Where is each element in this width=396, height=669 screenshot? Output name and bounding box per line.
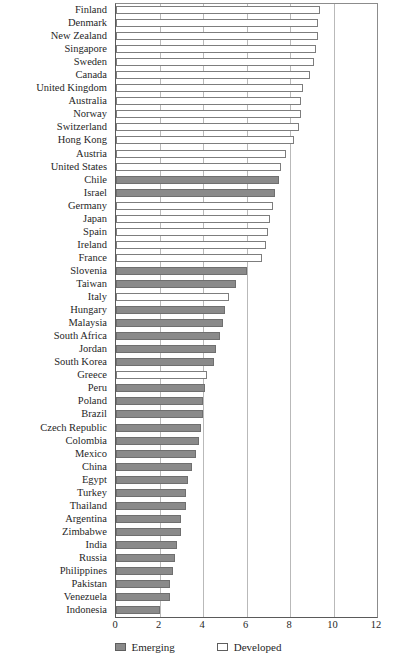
bar	[116, 176, 279, 184]
bar	[116, 202, 273, 210]
category-label: Austria	[0, 147, 112, 160]
legend-item: Emerging	[115, 641, 175, 653]
category-label: Japan	[0, 212, 112, 225]
bar	[116, 502, 186, 510]
bar	[116, 45, 316, 53]
category-label: Poland	[0, 394, 112, 407]
bar	[116, 463, 192, 471]
plot-area	[115, 3, 378, 618]
bar	[116, 71, 310, 79]
category-label: New Zealand	[0, 29, 112, 42]
legend-swatch-icon	[115, 643, 126, 651]
bar-row	[116, 369, 377, 382]
bar-row	[116, 148, 377, 161]
bar	[116, 371, 207, 379]
x-tick-label: 8	[286, 619, 291, 630]
bar	[116, 554, 175, 562]
category-label: Argentina	[0, 512, 112, 525]
bar	[116, 397, 203, 405]
bar	[116, 319, 223, 327]
bar-row	[116, 174, 377, 187]
legend-label: Emerging	[132, 641, 175, 653]
bar	[116, 358, 214, 366]
bar	[116, 136, 294, 144]
x-tick-label: 12	[371, 619, 382, 630]
bar	[116, 163, 281, 171]
bar-row	[116, 382, 377, 395]
category-label: Malaysia	[0, 316, 112, 329]
bar	[116, 32, 318, 40]
bar-row	[116, 239, 377, 252]
bar-row	[116, 487, 377, 500]
x-tick-label: 4	[199, 619, 204, 630]
category-label: United Kingdom	[0, 81, 112, 94]
bar	[116, 19, 318, 27]
category-label: United States	[0, 160, 112, 173]
bar-row	[116, 95, 377, 108]
category-label: Egypt	[0, 473, 112, 486]
bar-row	[116, 395, 377, 408]
bar-row	[116, 578, 377, 591]
bar-row	[116, 213, 377, 226]
category-label: Slovenia	[0, 264, 112, 277]
category-label: Zimbabwe	[0, 525, 112, 538]
category-axis-labels: FinlandDenmarkNew ZealandSingaporeSweden…	[0, 3, 112, 616]
bar-row	[116, 435, 377, 448]
category-label: Spain	[0, 225, 112, 238]
bar-row	[116, 552, 377, 565]
category-label: Jordan	[0, 342, 112, 355]
bar-row	[116, 422, 377, 435]
bar	[116, 528, 181, 536]
bar	[116, 123, 299, 131]
category-label: Germany	[0, 199, 112, 212]
bar-row	[116, 17, 377, 30]
bar	[116, 489, 186, 497]
bar-row	[116, 604, 377, 617]
category-label: Pakistan	[0, 577, 112, 590]
bar	[116, 332, 220, 340]
category-label: Hungary	[0, 303, 112, 316]
bar	[116, 215, 270, 223]
bar-row	[116, 43, 377, 56]
legend-item: Developed	[217, 641, 282, 653]
category-label: Czech Republic	[0, 421, 112, 434]
category-label: Thailand	[0, 499, 112, 512]
legend-swatch-icon	[217, 643, 228, 651]
category-label: Ireland	[0, 238, 112, 251]
category-label: France	[0, 251, 112, 264]
category-label: Switzerland	[0, 120, 112, 133]
bar	[116, 345, 216, 353]
bar-row	[116, 474, 377, 487]
category-label: Canada	[0, 68, 112, 81]
bar	[116, 541, 177, 549]
category-label: Greece	[0, 368, 112, 381]
bar-row	[116, 513, 377, 526]
bar	[116, 606, 160, 614]
bar-row	[116, 304, 377, 317]
bar-row	[116, 356, 377, 369]
bar-chart: FinlandDenmarkNew ZealandSingaporeSweden…	[0, 0, 396, 669]
bar	[116, 476, 188, 484]
bar-row	[116, 291, 377, 304]
bar	[116, 254, 262, 262]
category-label: Peru	[0, 381, 112, 394]
category-label: Singapore	[0, 42, 112, 55]
bar-series-container	[116, 4, 377, 617]
x-tick-label: 6	[243, 619, 248, 630]
bar-row	[116, 343, 377, 356]
bar-row	[116, 500, 377, 513]
bar	[116, 6, 320, 14]
bar	[116, 189, 275, 197]
x-axis-tick-labels: 024681012	[115, 619, 376, 635]
category-label: South Africa	[0, 329, 112, 342]
category-label: Mexico	[0, 447, 112, 460]
bar	[116, 437, 199, 445]
bar-row	[116, 539, 377, 552]
bar-row	[116, 121, 377, 134]
bar	[116, 293, 229, 301]
category-label: Chile	[0, 173, 112, 186]
bar-row	[116, 591, 377, 604]
category-label: Colombia	[0, 434, 112, 447]
category-label: Italy	[0, 290, 112, 303]
bar	[116, 410, 203, 418]
